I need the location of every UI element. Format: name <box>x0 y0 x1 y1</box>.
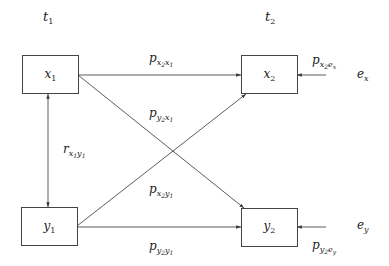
path-label-p-y2x1: py2x1 <box>149 107 173 123</box>
time-label-t1: t1 <box>43 10 53 26</box>
path-label-r-x1y1: rx1y1 <box>63 143 85 159</box>
path-label-p-y2y1: py2y1 <box>149 240 173 256</box>
error-term-ex: ex <box>357 68 369 83</box>
node-x1: x1 <box>22 67 79 83</box>
path-label-p-x2ex: px2ex <box>312 54 336 70</box>
path-label-p-x2x1: px2x1 <box>149 52 173 68</box>
node-x2: x2 <box>241 67 298 83</box>
node-y1: y1 <box>21 219 78 235</box>
time-label-t2: t2 <box>265 10 275 26</box>
node-y2: y2 <box>241 219 298 235</box>
path-label-p-x2y1: px2y1 <box>149 183 173 199</box>
error-term-ey: ey <box>357 219 369 234</box>
path-label-p-y2ey: py2ey <box>312 239 336 255</box>
